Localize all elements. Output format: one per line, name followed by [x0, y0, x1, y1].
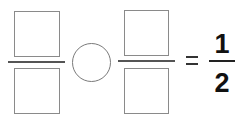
right-numerator-box[interactable]: [124, 10, 169, 56]
result-numerator: 1: [209, 31, 235, 58]
operator-circle[interactable]: [72, 43, 111, 82]
left-numerator-box[interactable]: [14, 11, 60, 57]
result-fraction-bar: [209, 60, 235, 62]
left-denominator-box[interactable]: [14, 68, 60, 114]
right-denominator-box[interactable]: [124, 68, 169, 114]
right-fraction-bar: [118, 60, 175, 62]
left-fraction-bar: [8, 61, 65, 63]
result-denominator: 2: [209, 70, 235, 97]
